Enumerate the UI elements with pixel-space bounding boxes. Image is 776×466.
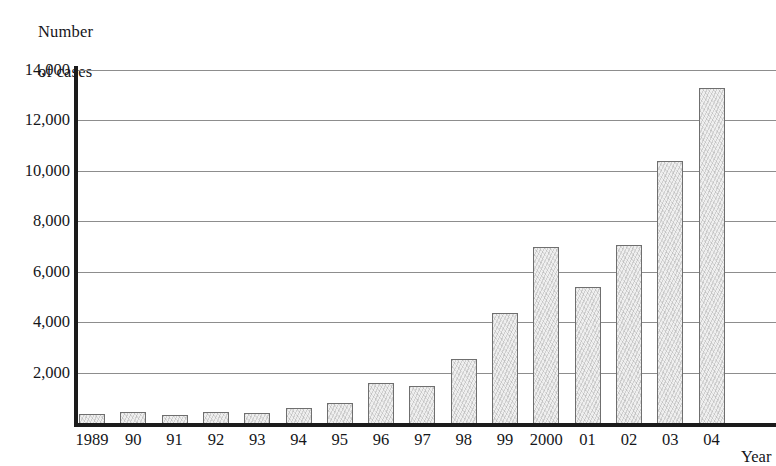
x-tick-label: 95 bbox=[332, 430, 349, 450]
bar bbox=[327, 403, 353, 423]
x-tick-label: 99 bbox=[497, 430, 514, 450]
x-axis-line bbox=[74, 423, 776, 427]
bar bbox=[244, 413, 270, 423]
gridline bbox=[78, 70, 776, 71]
plot-area bbox=[78, 70, 776, 423]
bar bbox=[120, 412, 146, 423]
bar bbox=[286, 408, 312, 423]
x-tick-label: 98 bbox=[455, 430, 472, 450]
bar bbox=[203, 412, 229, 423]
y-tick-label: 2,000 bbox=[33, 365, 70, 382]
bar bbox=[79, 414, 105, 423]
bar bbox=[409, 386, 435, 423]
bar bbox=[492, 313, 518, 423]
gridline bbox=[78, 120, 776, 121]
y-tick-label: 4,000 bbox=[33, 314, 70, 331]
bar bbox=[368, 383, 394, 423]
bar bbox=[575, 287, 601, 423]
y-tick-label: 10,000 bbox=[25, 163, 70, 180]
y-axis-line bbox=[74, 66, 78, 427]
bar bbox=[533, 247, 559, 424]
bar bbox=[616, 245, 642, 423]
y-tick-label: 6,000 bbox=[33, 264, 70, 281]
x-tick-label: 01 bbox=[579, 430, 596, 450]
y-tick-label: 8,000 bbox=[33, 213, 70, 230]
x-tick-label: 92 bbox=[208, 430, 225, 450]
x-axis-tick-labels: 198990919293949596979899200001020304 bbox=[78, 430, 776, 456]
bar bbox=[699, 88, 725, 423]
y-axis-tick-labels: 14,00012,00010,0008,0006,0004,0002,000 bbox=[0, 0, 70, 460]
x-axis-title: Year bbox=[741, 447, 771, 466]
x-tick-label: 96 bbox=[373, 430, 390, 450]
bar bbox=[162, 415, 188, 423]
x-tick-label: 04 bbox=[703, 430, 720, 450]
y-tick-label: 12,000 bbox=[25, 112, 70, 129]
x-tick-label: 91 bbox=[166, 430, 183, 450]
x-tick-label: 1989 bbox=[76, 430, 109, 450]
x-tick-label: 03 bbox=[662, 430, 679, 450]
x-tick-label: 02 bbox=[621, 430, 638, 450]
bar bbox=[657, 161, 683, 423]
x-tick-label: 2000 bbox=[530, 430, 563, 450]
x-tick-label: 90 bbox=[125, 430, 142, 450]
x-tick-label: 93 bbox=[249, 430, 266, 450]
bar bbox=[451, 359, 477, 423]
x-tick-label: 97 bbox=[414, 430, 431, 450]
y-tick-label: 14,000 bbox=[25, 62, 70, 79]
x-tick-label: 94 bbox=[290, 430, 307, 450]
